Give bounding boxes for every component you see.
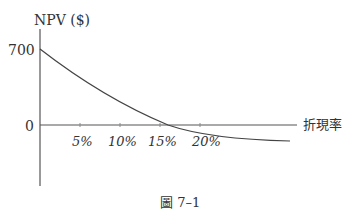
y-axis-label: NPV ($): [34, 13, 90, 27]
y-tick-label-700: 700: [8, 43, 35, 57]
x-tick-label-5: 5%: [72, 135, 93, 148]
chart-canvas: [0, 0, 361, 217]
figure-caption: 圖 7–1: [160, 196, 200, 209]
x-axis-label: 折現率: [303, 118, 342, 131]
y-tick-label-0: 0: [25, 119, 34, 133]
x-tick-label-15: 15%: [148, 135, 177, 148]
x-tick-label-20: 20%: [192, 135, 221, 148]
npv-curve: [40, 49, 290, 141]
x-tick-label-10: 10%: [108, 135, 137, 148]
